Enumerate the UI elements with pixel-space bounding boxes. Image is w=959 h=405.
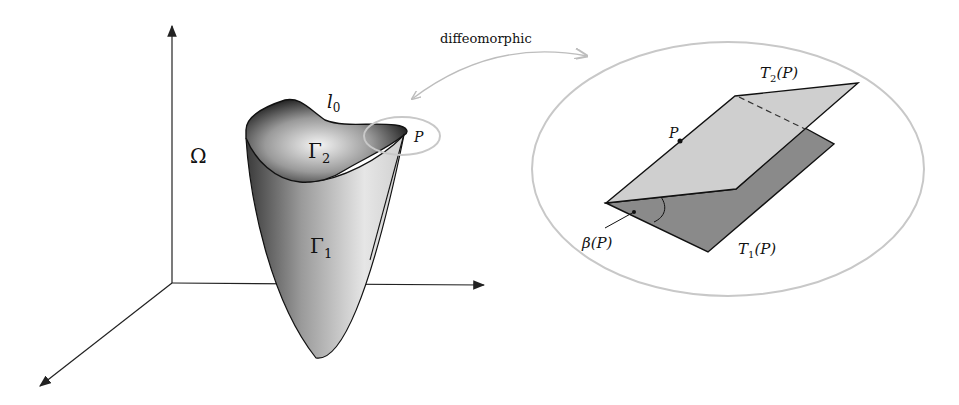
- beta-label: β(P): [581, 234, 613, 252]
- curve-l0-label: l0: [327, 91, 340, 115]
- t1-label: T1(P): [738, 240, 776, 260]
- point-p-label-right: P: [668, 125, 679, 141]
- t2-label: T2(P): [760, 64, 798, 84]
- diagram-canvas: Ω l0 Γ2 Γ1 P diffeomorphic T2(P) T1(P) P…: [0, 0, 959, 405]
- diffeomorphic-arrow[interactable]: [412, 52, 587, 99]
- point-p-label-left: P: [413, 129, 424, 145]
- omega-label: Ω: [190, 144, 207, 168]
- diffeomorphic-label: diffeomorphic: [440, 31, 532, 46]
